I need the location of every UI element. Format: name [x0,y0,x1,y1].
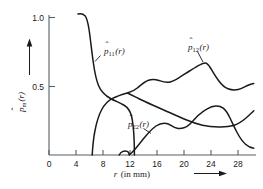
x-tick-label-12: 12 [125,159,135,169]
chart-figure: 1.0 0.5 0 4 8 12 16 20 24 28 r(in mm) pm… [0,0,263,189]
y-axis-title-arg: (r) [16,92,26,102]
x-tick-label-24: 24 [206,159,216,169]
curve-p22 [119,106,254,155]
y-axis-title: pm(r) ˆ [10,92,28,113]
x-tick-label-20: 20 [179,159,189,169]
annotation-p11: p11(r) ˆ [103,40,125,58]
annotation-p12-sub: 12 [193,46,199,53]
annotation-p12-arg: (r) [199,42,209,52]
annotation-p11-sub: 11 [109,50,115,57]
annotation-p22-sub: 22 [133,123,139,130]
y-tick-label-0.5: 0.5 [32,82,44,92]
curve-p12 [92,63,254,155]
annotation-p22-hat: ˆ [129,113,132,123]
x-axis-arrow-head [219,171,227,176]
y-axis-arrow-head [27,39,33,47]
x-tick-label-28: 28 [233,159,243,169]
y-tick-label-1.0: 1.0 [32,13,44,23]
leader-p11 [95,56,101,62]
x-tick-label-16: 16 [152,159,162,169]
plot-area: 1.0 0.5 0 4 8 12 16 20 24 28 r(in mm) pm… [0,0,263,189]
annotation-p11-arg: (r) [115,46,125,56]
x-tick-label-8: 8 [101,159,106,169]
x-tick-label-0: 0 [47,159,52,169]
annotation-p22-arg: (r) [139,119,149,129]
x-axis-title-var: r [114,169,118,179]
x-tick-label-4: 4 [74,159,79,169]
y-axis-title-hat: ˆ [10,108,20,111]
annotation-p12-hat: ˆ [189,36,192,46]
x-axis-title: r(in mm) [114,169,150,179]
annotation-p11-hat: ˆ [105,40,108,50]
annotation-p12: p12(r) ˆ [187,36,209,54]
annotation-p22: p22(r) ˆ [127,113,149,131]
x-axis-title-rest: (in mm) [121,169,150,179]
y-axis-title-sub: m [20,103,27,108]
curve-p11 [78,14,134,155]
